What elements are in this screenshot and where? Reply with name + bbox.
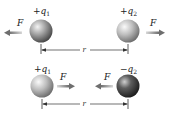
label-top-force-right: F	[149, 18, 157, 28]
charge-bottom-q1	[31, 75, 54, 98]
coulomb-diagram: +q1 +q2 F F r +q1	[0, 0, 174, 117]
bottom-row: +q1 −q2 F F r	[31, 64, 140, 109]
force-arrow-top-left-icon	[4, 30, 22, 37]
charge-top-q1	[30, 20, 53, 43]
label-top-distance: r	[83, 46, 87, 54]
label-top-q2: +q2	[120, 6, 137, 17]
force-arrow-bottom-right-icon	[95, 83, 113, 90]
charge-top-q2	[117, 20, 140, 43]
force-arrow-top-right-icon	[146, 30, 165, 37]
charge-bottom-q2	[117, 75, 140, 98]
label-bottom-force-right: F	[103, 72, 111, 82]
label-top-force-left: F	[16, 18, 24, 28]
label-bottom-q2: −q2	[120, 64, 137, 75]
label-bottom-q1: +q1	[34, 64, 51, 75]
top-row: +q1 +q2 F F r	[4, 6, 165, 54]
label-bottom-force-left: F	[59, 72, 67, 82]
label-bottom-distance: r	[83, 100, 87, 108]
force-arrow-bottom-left-icon	[57, 83, 75, 90]
label-top-q1: +q1	[33, 6, 50, 17]
